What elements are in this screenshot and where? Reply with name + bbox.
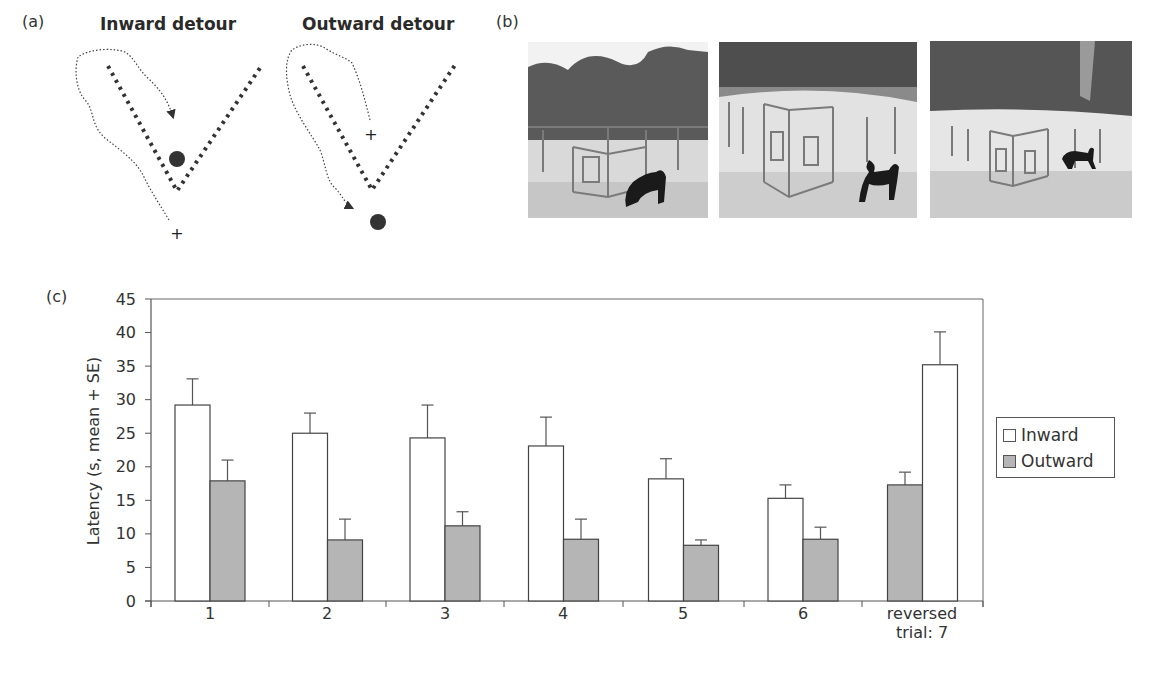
x-tick-label-line1: reversed xyxy=(862,604,982,623)
outward-swatch-icon xyxy=(1003,455,1016,468)
bar-chart-plot xyxy=(0,0,1160,683)
x-tick-label: 5 xyxy=(623,604,743,623)
x-tick-label: 6 xyxy=(743,604,863,623)
x-tick-label: 1 xyxy=(150,604,270,623)
legend-item-outward: Outward xyxy=(997,448,1114,474)
inward-swatch-icon xyxy=(1003,429,1016,442)
x-tick-label: 4 xyxy=(503,604,623,623)
x-tick-label: 3 xyxy=(385,604,505,623)
x-tick-label: 2 xyxy=(267,604,387,623)
legend-label-inward: Inward xyxy=(1021,425,1079,445)
chart-legend: Inward Outward xyxy=(996,417,1115,478)
legend-item-inward: Inward xyxy=(997,422,1114,448)
legend-label-outward: Outward xyxy=(1021,451,1094,471)
x-tick-label-reversed: reversed trial: 7 xyxy=(862,604,982,642)
x-tick-label-line2: trial: 7 xyxy=(862,623,982,642)
